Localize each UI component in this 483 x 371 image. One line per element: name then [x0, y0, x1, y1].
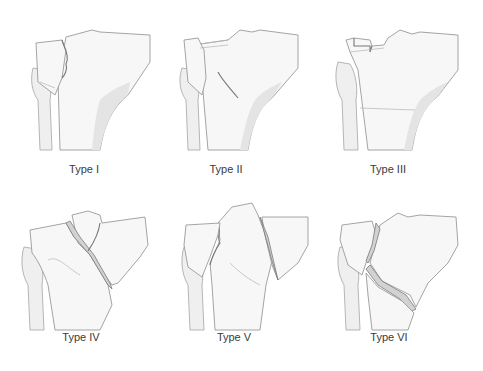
- tibia-type-2-illustration: [160, 0, 320, 185]
- tibia-type-3-illustration: [320, 0, 483, 185]
- panel-type-1: Type I: [0, 0, 160, 185]
- panel-type-3: Type III: [320, 0, 480, 185]
- panel-label: Type V: [217, 331, 251, 343]
- panel-label: Type I: [69, 163, 99, 175]
- panel-label: Type II: [209, 163, 242, 175]
- panel-label: Type IV: [62, 331, 99, 343]
- tibia-type-4-illustration: [0, 185, 160, 371]
- panel-label: Type III: [370, 163, 406, 175]
- tibia-type-6-illustration: [320, 185, 483, 371]
- tibia-type-1-illustration: [0, 0, 160, 185]
- tibia-type-5-illustration: [160, 185, 320, 371]
- panel-type-4: Type IV: [0, 185, 160, 370]
- panel-type-2: Type II: [160, 0, 320, 185]
- panel-type-5: Type V: [160, 185, 320, 370]
- panel-type-6: Type VI: [320, 185, 480, 370]
- panel-label: Type VI: [370, 331, 407, 343]
